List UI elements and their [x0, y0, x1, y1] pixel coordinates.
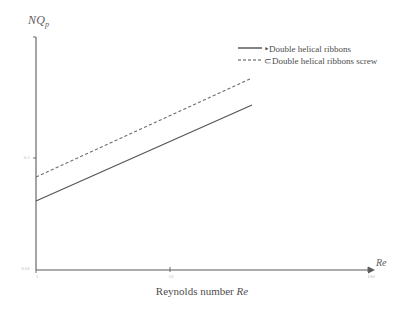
y-axis-label: NQp [28, 14, 49, 29]
x-axis-symbol-label: Re [376, 258, 387, 268]
x-tick-label-0: 1 [27, 274, 47, 279]
legend-label-0: Double helical ribbons [269, 44, 351, 54]
y-tick-label-0: 0.01 [8, 266, 30, 271]
legend-label-1: Double helical ribbons screw [272, 56, 377, 66]
y-axis-label-main: NQ [28, 13, 45, 27]
x-tick-label-1: 10 [161, 274, 181, 279]
x-tick-label-2: 100 [361, 274, 381, 279]
series-line-double-helical-ribbons [36, 105, 252, 201]
legend-entry-double-helical-ribbons: ‣Double helical ribbons [264, 44, 351, 54]
figure-container: NQp Re 0.01 0.1 1 10 100 ‣Double helical… [0, 0, 404, 314]
y-axis-label-subscript: p [45, 20, 49, 29]
legend-entry-double-helical-ribbons-screw: ⊂Double helical ribbons screw [264, 56, 377, 66]
legend-marker-icon-1: ⊂ [264, 56, 272, 66]
figure-caption: Reynolds number Re [0, 286, 404, 297]
caption-symbol: Re [237, 285, 249, 297]
y-tick-label-1: 0.1 [8, 155, 30, 160]
x-axis-arrow-icon [368, 267, 375, 274]
series-line-double-helical-ribbons-screw [36, 78, 252, 177]
caption-text: Reynolds number [156, 285, 237, 297]
